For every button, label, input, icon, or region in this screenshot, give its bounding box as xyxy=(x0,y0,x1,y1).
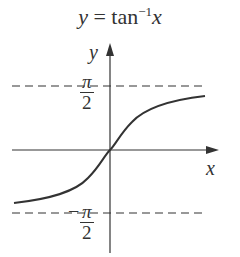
x-axis-arrow-icon xyxy=(206,146,219,154)
lower-asymptote-label: π 2 xyxy=(80,202,94,243)
upper-asymptote-label: π 2 xyxy=(80,72,94,113)
x-axis-label: x xyxy=(206,157,215,180)
y-axis-arrow-icon xyxy=(106,43,114,56)
lower-den: 2 xyxy=(82,222,92,243)
upper-num: π xyxy=(80,72,94,93)
y-axis-label: y xyxy=(89,41,98,64)
arctan-plot xyxy=(0,0,240,257)
lower-num: π xyxy=(80,202,94,223)
lower-sign: − xyxy=(68,200,79,223)
upper-den: 2 xyxy=(82,92,92,113)
